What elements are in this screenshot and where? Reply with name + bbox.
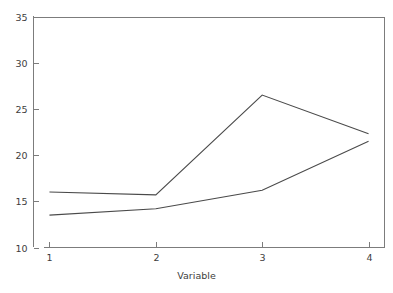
x-axis-title: Variable <box>177 270 216 281</box>
chart-canvas: 101520253035 1234 Variable <box>0 0 393 293</box>
x-tick-label: 3 <box>259 252 265 263</box>
x-tick-label: 1 <box>46 252 52 263</box>
chart-background <box>0 0 393 293</box>
y-tick-label: 15 <box>15 196 27 207</box>
y-tick-label: 30 <box>15 58 27 69</box>
y-tick-label: 25 <box>15 104 27 115</box>
x-tick-label: 4 <box>366 252 372 263</box>
line-chart: 101520253035 1234 Variable <box>0 0 393 293</box>
y-tick-label: 20 <box>15 150 27 161</box>
y-tick-label: 10 <box>15 243 27 254</box>
x-tick-label: 2 <box>153 252 159 263</box>
y-tick-label: 35 <box>15 12 27 23</box>
